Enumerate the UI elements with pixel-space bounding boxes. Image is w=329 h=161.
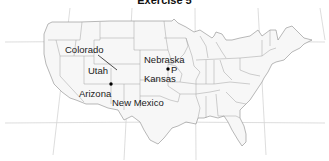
label-colorado: Colorado	[65, 45, 104, 55]
label-arizona: Arizona	[79, 89, 111, 99]
label-utah: Utah	[88, 66, 108, 76]
label-kansas: Kansas	[144, 74, 176, 84]
label-nebraska: Nebraska	[144, 55, 185, 65]
four-corners-marker	[109, 82, 112, 85]
label-new-mexico: New Mexico	[112, 98, 164, 108]
point-p-marker	[166, 67, 169, 70]
